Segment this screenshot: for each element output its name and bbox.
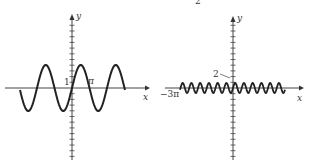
left-pi-label: π bbox=[87, 76, 95, 86]
right-chart: 2 y x 2 −3π bbox=[160, 0, 304, 160]
right-y-arrow-icon bbox=[231, 16, 236, 22]
right-y-label: y bbox=[236, 13, 243, 23]
left-x-arrow-icon bbox=[145, 86, 150, 91]
right-x-label: x bbox=[297, 93, 302, 103]
right-tick-two-label: 2 bbox=[213, 69, 219, 79]
right-x-arrow-icon bbox=[299, 86, 304, 91]
left-y-label: y bbox=[75, 11, 82, 21]
left-tick-one-label: 1 bbox=[64, 77, 70, 87]
top-fragment: 2 bbox=[195, 0, 201, 6]
figure: y x 1 π 2 y x 2 −3π bbox=[0, 0, 313, 166]
left-chart: y x 1 π bbox=[5, 11, 150, 160]
right-neg3pi-label: −3π bbox=[160, 89, 179, 99]
right-label-leader bbox=[220, 74, 230, 78]
left-x-label: x bbox=[143, 92, 148, 102]
left-y-arrow-icon bbox=[70, 14, 75, 20]
